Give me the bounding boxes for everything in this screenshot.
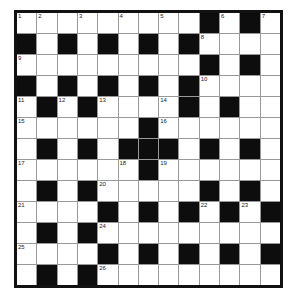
answer-cell[interactable] xyxy=(220,76,239,96)
answer-cell[interactable] xyxy=(58,181,77,201)
answer-cell[interactable] xyxy=(58,202,77,222)
answer-cell[interactable]: 3 xyxy=(78,13,97,33)
answer-cell[interactable] xyxy=(220,118,239,138)
answer-cell[interactable] xyxy=(261,76,280,96)
answer-cell[interactable] xyxy=(37,76,56,96)
answer-cell[interactable] xyxy=(139,55,158,75)
answer-cell[interactable] xyxy=(58,244,77,264)
answer-cell[interactable] xyxy=(139,265,158,285)
answer-cell[interactable] xyxy=(261,139,280,159)
answer-cell[interactable] xyxy=(37,202,56,222)
answer-cell[interactable] xyxy=(78,202,97,222)
answer-cell[interactable] xyxy=(58,265,77,285)
answer-cell[interactable]: 23 xyxy=(240,202,259,222)
answer-cell[interactable] xyxy=(139,223,158,243)
answer-cell[interactable] xyxy=(240,160,259,180)
answer-cell[interactable] xyxy=(200,223,219,243)
answer-cell[interactable] xyxy=(98,55,117,75)
answer-cell[interactable] xyxy=(159,223,178,243)
answer-cell[interactable]: 20 xyxy=(98,181,117,201)
answer-cell[interactable] xyxy=(261,118,280,138)
answer-cell[interactable] xyxy=(220,55,239,75)
answer-cell[interactable] xyxy=(17,181,36,201)
answer-cell[interactable] xyxy=(159,244,178,264)
answer-cell[interactable] xyxy=(119,265,138,285)
answer-cell[interactable]: 2 xyxy=(37,13,56,33)
answer-cell[interactable] xyxy=(98,139,117,159)
answer-cell[interactable] xyxy=(119,76,138,96)
answer-cell[interactable] xyxy=(220,160,239,180)
answer-cell[interactable] xyxy=(261,181,280,201)
answer-cell[interactable] xyxy=(139,97,158,117)
answer-cell[interactable] xyxy=(78,34,97,54)
answer-cell[interactable]: 11 xyxy=(17,97,36,117)
answer-cell[interactable]: 13 xyxy=(98,97,117,117)
answer-cell[interactable]: 24 xyxy=(98,223,117,243)
answer-cell[interactable] xyxy=(240,265,259,285)
answer-cell[interactable]: 26 xyxy=(98,265,117,285)
answer-cell[interactable] xyxy=(78,244,97,264)
answer-cell[interactable] xyxy=(119,55,138,75)
answer-cell[interactable]: 14 xyxy=(159,97,178,117)
answer-cell[interactable] xyxy=(78,76,97,96)
answer-cell[interactable] xyxy=(200,265,219,285)
answer-cell[interactable] xyxy=(261,223,280,243)
answer-cell[interactable] xyxy=(261,34,280,54)
answer-cell[interactable] xyxy=(261,55,280,75)
answer-cell[interactable] xyxy=(98,118,117,138)
answer-cell[interactable] xyxy=(78,55,97,75)
answer-cell[interactable]: 22 xyxy=(200,202,219,222)
answer-cell[interactable] xyxy=(179,223,198,243)
answer-cell[interactable] xyxy=(37,244,56,264)
answer-cell[interactable]: 21 xyxy=(17,202,36,222)
answer-cell[interactable]: 7 xyxy=(261,13,280,33)
answer-cell[interactable] xyxy=(17,139,36,159)
answer-cell[interactable] xyxy=(240,118,259,138)
answer-cell[interactable] xyxy=(37,34,56,54)
answer-cell[interactable] xyxy=(240,223,259,243)
answer-cell[interactable] xyxy=(179,160,198,180)
answer-cell[interactable]: 25 xyxy=(17,244,36,264)
answer-cell[interactable]: 17 xyxy=(17,160,36,180)
answer-cell[interactable]: 8 xyxy=(200,34,219,54)
answer-cell[interactable] xyxy=(220,223,239,243)
answer-cell[interactable] xyxy=(58,55,77,75)
answer-cell[interactable] xyxy=(159,76,178,96)
answer-cell[interactable] xyxy=(240,34,259,54)
answer-cell[interactable] xyxy=(78,160,97,180)
answer-cell[interactable] xyxy=(220,181,239,201)
answer-cell[interactable] xyxy=(261,97,280,117)
answer-cell[interactable] xyxy=(17,265,36,285)
answer-cell[interactable] xyxy=(37,160,56,180)
answer-cell[interactable]: 4 xyxy=(119,13,138,33)
answer-cell[interactable]: 12 xyxy=(58,97,77,117)
answer-cell[interactable] xyxy=(58,160,77,180)
answer-cell[interactable] xyxy=(139,181,158,201)
answer-cell[interactable] xyxy=(220,139,239,159)
answer-cell[interactable] xyxy=(159,265,178,285)
answer-cell[interactable] xyxy=(58,223,77,243)
answer-cell[interactable]: 10 xyxy=(200,76,219,96)
answer-cell[interactable]: 5 xyxy=(159,13,178,33)
answer-cell[interactable] xyxy=(37,55,56,75)
answer-cell[interactable] xyxy=(179,118,198,138)
answer-cell[interactable] xyxy=(200,160,219,180)
answer-cell[interactable] xyxy=(179,13,198,33)
answer-cell[interactable] xyxy=(200,244,219,264)
answer-cell[interactable]: 19 xyxy=(159,160,178,180)
answer-cell[interactable] xyxy=(139,13,158,33)
answer-cell[interactable] xyxy=(200,118,219,138)
answer-cell[interactable] xyxy=(240,76,259,96)
answer-cell[interactable] xyxy=(179,139,198,159)
answer-cell[interactable] xyxy=(240,97,259,117)
answer-cell[interactable] xyxy=(58,118,77,138)
answer-cell[interactable] xyxy=(220,34,239,54)
answer-cell[interactable] xyxy=(261,160,280,180)
answer-cell[interactable]: 15 xyxy=(17,118,36,138)
answer-cell[interactable] xyxy=(240,244,259,264)
answer-cell[interactable] xyxy=(119,97,138,117)
answer-cell[interactable] xyxy=(58,139,77,159)
answer-cell[interactable]: 16 xyxy=(159,118,178,138)
answer-cell[interactable] xyxy=(179,181,198,201)
answer-cell[interactable]: 6 xyxy=(220,13,239,33)
